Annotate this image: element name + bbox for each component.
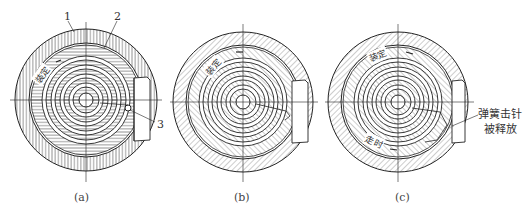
panel-b-drawing [170, 24, 318, 182]
panel-b-caption: (b) [234, 191, 250, 204]
part-label-3: 3 [157, 119, 164, 130]
panel-c-caption: (c) [395, 191, 410, 204]
panel-c-drawing [325, 24, 478, 182]
part-label-2: 2 [114, 11, 121, 22]
panel-a-drawing [10, 21, 162, 182]
panel-c-annotation-line1: 弹簧击针 [478, 109, 522, 120]
diagram-canvas [0, 0, 524, 212]
part-label-1: 1 [64, 11, 71, 22]
panel-c-annotation-line2: 被释放 [484, 124, 517, 135]
panel-a-caption: (a) [74, 191, 89, 204]
